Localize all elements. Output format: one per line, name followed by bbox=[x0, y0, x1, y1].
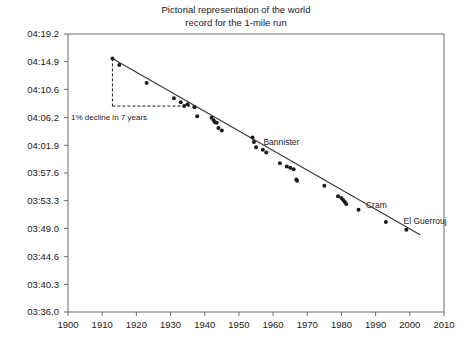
x-tick-label: 1930 bbox=[160, 319, 181, 330]
data-point bbox=[172, 96, 176, 100]
x-tick-label: 1990 bbox=[365, 319, 386, 330]
data-point bbox=[292, 167, 296, 171]
data-point bbox=[186, 102, 190, 106]
x-tick-label: 1950 bbox=[228, 319, 249, 330]
y-tick-label: 03:53.3 bbox=[27, 195, 59, 206]
chart-page: Pictorial representation of the world re… bbox=[0, 0, 472, 346]
y-tick-label: 04:14.9 bbox=[27, 56, 59, 67]
plot-border bbox=[68, 34, 444, 312]
y-axis-tick-labels: 04:19.204:14.904:10.604:06.204:01.903:57… bbox=[27, 28, 59, 317]
y-tick-label: 03:49.0 bbox=[27, 223, 59, 234]
cram-label: Cram bbox=[366, 200, 387, 210]
data-point bbox=[322, 184, 326, 188]
data-point bbox=[182, 104, 186, 108]
x-tick-label: 1960 bbox=[263, 319, 284, 330]
x-tick-label: 2010 bbox=[433, 319, 454, 330]
data-point bbox=[288, 166, 292, 170]
data-point bbox=[215, 121, 219, 125]
el-guerrouj-label: El Guerrouj bbox=[404, 216, 447, 226]
data-point bbox=[145, 81, 149, 85]
bannister-label: Bannister bbox=[263, 137, 299, 147]
data-point bbox=[254, 145, 258, 149]
data-point bbox=[278, 161, 282, 165]
data-point bbox=[344, 202, 348, 206]
data-point bbox=[251, 136, 255, 140]
data-point bbox=[357, 208, 361, 212]
chart-plot-area: 04:19.204:14.904:10.604:06.204:01.903:57… bbox=[0, 0, 472, 346]
x-tick-label: 1940 bbox=[194, 319, 215, 330]
data-point bbox=[264, 150, 268, 154]
data-point bbox=[216, 126, 220, 130]
y-tick-label: 04:10.6 bbox=[27, 84, 59, 95]
data-point bbox=[252, 140, 256, 144]
y-tick-label: 03:44.6 bbox=[27, 251, 59, 262]
y-tick-label: 03:36.0 bbox=[27, 306, 59, 317]
data-point bbox=[384, 220, 388, 224]
y-tick-label: 04:06.2 bbox=[27, 112, 59, 123]
y-tick-label: 04:19.2 bbox=[27, 28, 59, 39]
y-tick-label: 03:40.3 bbox=[27, 279, 59, 290]
y-tick-label: 03:57.6 bbox=[27, 167, 59, 178]
x-axis-tick-labels: 1900191019201930194019501960197019801990… bbox=[57, 319, 454, 330]
data-point bbox=[336, 194, 340, 198]
data-point bbox=[404, 228, 408, 232]
data-point bbox=[261, 148, 265, 152]
x-tick-label: 2000 bbox=[399, 319, 420, 330]
plot-frame bbox=[68, 34, 444, 312]
data-point bbox=[220, 129, 224, 133]
data-point bbox=[179, 100, 183, 104]
data-point bbox=[110, 56, 114, 60]
data-point bbox=[195, 114, 199, 118]
x-tick-label: 1910 bbox=[92, 319, 113, 330]
x-tick-label: 1970 bbox=[297, 319, 318, 330]
x-tick-label: 1980 bbox=[331, 319, 352, 330]
x-tick-label: 1920 bbox=[126, 319, 147, 330]
x-axis-ticks bbox=[68, 312, 444, 316]
data-point bbox=[285, 165, 289, 169]
y-tick-label: 04:01.9 bbox=[27, 140, 59, 151]
y-axis-ticks bbox=[64, 34, 68, 312]
decline-annotation: 1% decline in 7 years bbox=[71, 113, 147, 122]
annotation-labels: 1% decline in 7 yearsBannisterCramEl Gue… bbox=[71, 113, 447, 226]
data-point bbox=[117, 63, 121, 67]
data-point bbox=[192, 105, 196, 109]
x-tick-label: 1900 bbox=[57, 319, 78, 330]
data-point bbox=[295, 179, 299, 183]
